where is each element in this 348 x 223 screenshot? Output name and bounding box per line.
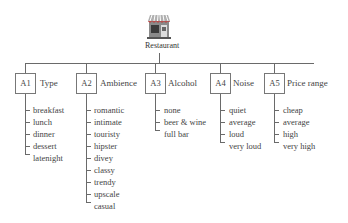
tick (86, 122, 91, 123)
value-very-loud: very loud (229, 141, 261, 151)
tick (25, 154, 30, 155)
value-cheap: cheap (283, 105, 303, 115)
value-branch-a3 (155, 94, 156, 130)
tick (86, 202, 91, 203)
value-loud: loud (229, 129, 244, 139)
value-full-bar: full bar (164, 129, 189, 139)
value-dinner: dinner (33, 129, 55, 139)
value-high: high (283, 129, 298, 139)
root-connector (159, 53, 160, 63)
tick (220, 110, 225, 111)
value-romantic: romantic (94, 105, 124, 115)
tick (86, 170, 91, 171)
restaurant-storefront-icon (146, 12, 172, 39)
value-lunch: lunch (33, 117, 52, 127)
tick (86, 194, 91, 195)
tick (220, 142, 225, 143)
tick (220, 122, 225, 123)
tick (86, 146, 91, 147)
attribute-label-noise: Noise (233, 78, 254, 89)
tick (25, 122, 30, 123)
tick (220, 134, 225, 135)
root-label: Restaurant (145, 41, 179, 50)
value-classy: classy (94, 165, 115, 175)
value-trendy: trendy (94, 177, 116, 187)
tick (86, 158, 91, 159)
attribute-box-a5: A5 (264, 73, 285, 94)
tick (25, 134, 30, 135)
tick (86, 182, 91, 183)
value-average-noise: average (229, 117, 255, 127)
tick (86, 134, 91, 135)
attribute-label-ambience: Ambience (100, 78, 137, 89)
value-breakfast: breakfast (33, 105, 64, 115)
value-average-price: average (283, 117, 309, 127)
horizontal-connector (25, 63, 314, 64)
value-beer-wine: beer & wine (164, 117, 206, 127)
tick (86, 110, 91, 111)
attribute-box-a4: A4 (210, 73, 231, 94)
value-divey: divey (94, 153, 113, 163)
value-none: none (164, 105, 181, 115)
attribute-box-a2: A2 (76, 73, 97, 94)
attribute-label-alcohol: Alcohol (168, 78, 197, 89)
tick (155, 122, 160, 123)
tick (155, 110, 160, 111)
value-branch-a1 (25, 94, 26, 154)
tick (25, 146, 30, 147)
tick (155, 130, 160, 131)
attribute-box-a3: A3 (145, 73, 166, 94)
value-latenight: latenight (33, 153, 63, 163)
tick (274, 110, 279, 111)
value-dessert: dessert (33, 141, 57, 151)
tick (274, 142, 279, 143)
attribute-label-price-range: Price range (287, 78, 328, 89)
value-touristy: touristy (94, 129, 120, 139)
tick (274, 122, 279, 123)
value-hipster: hipster (94, 141, 117, 151)
attribute-label-type: Type (40, 78, 58, 89)
value-very-high: very high (283, 141, 315, 151)
attribute-box-a1: A1 (15, 73, 36, 94)
value-upscale: upscale (94, 189, 120, 199)
value-quiet: quiet (229, 105, 246, 115)
value-casual: casual (94, 201, 115, 211)
tick (25, 110, 30, 111)
value-intimate: intimate (94, 117, 122, 127)
tick (274, 134, 279, 135)
